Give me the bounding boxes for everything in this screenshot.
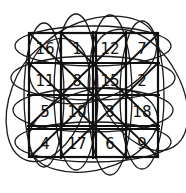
cell-r1c4: 7 — [137, 40, 147, 58]
diagram-canvas: 16 1 12 7 11 8 15 2 5 10 3 18 4 17 6 9 — [0, 0, 186, 193]
cell-r4c2: 17 — [67, 135, 86, 153]
cell-r4c1: 4 — [40, 135, 50, 153]
cell-r3c3: 3 — [105, 103, 115, 121]
cell-r2c3: 15 — [100, 72, 119, 90]
cell-r3c1: 5 — [40, 103, 50, 121]
cell-r1c1: 16 — [35, 40, 54, 58]
cell-r1c3: 12 — [100, 40, 119, 58]
cell-r1c2: 1 — [72, 40, 82, 58]
cell-r2c2: 8 — [72, 72, 82, 90]
cell-r3c2: 10 — [67, 103, 86, 121]
cell-r4c3: 6 — [105, 135, 115, 153]
cell-r2c4: 2 — [137, 72, 147, 90]
cell-r3c4: 18 — [132, 103, 151, 121]
cell-r2c1: 11 — [35, 72, 54, 90]
cell-r4c4: 9 — [137, 135, 147, 153]
